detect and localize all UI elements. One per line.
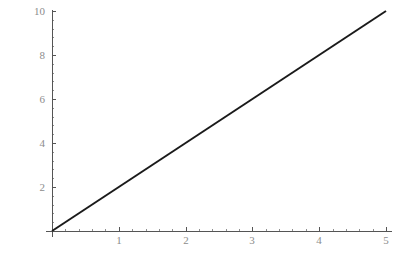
x-tick-label: 4 — [316, 234, 322, 246]
y-axis-tick-labels: 246810 — [34, 5, 46, 193]
plot-canvas: 12345 246810 — [0, 0, 400, 253]
x-tick-label: 5 — [383, 234, 389, 246]
x-tick-label: 2 — [183, 234, 189, 246]
y-tick-label: 4 — [40, 137, 46, 149]
x-tick-label: 3 — [249, 234, 255, 246]
x-tick-label: 1 — [116, 234, 122, 246]
y-tick-label: 8 — [40, 49, 46, 61]
line-chart: 12345 246810 — [0, 0, 400, 253]
y-tick-label: 2 — [40, 181, 46, 193]
data-series — [52, 11, 386, 231]
x-axis-tick-labels: 12345 — [116, 234, 389, 246]
y-tick-label: 10 — [34, 5, 46, 17]
series-line-0 — [52, 11, 386, 231]
y-tick-label: 6 — [40, 93, 46, 105]
